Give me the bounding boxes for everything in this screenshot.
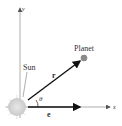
angle-arc xyxy=(36,100,38,107)
y-axis-label: y xyxy=(21,6,25,12)
eccentricity-vector-label: e xyxy=(47,110,51,119)
orbit-diagram: y x Sun Planet r θ e xyxy=(0,0,122,126)
planet-icon xyxy=(81,55,88,62)
x-axis-label: x xyxy=(112,104,116,110)
sun-label-leader xyxy=(23,72,27,97)
sun-label: Sun xyxy=(23,63,35,72)
radius-vector-label: r xyxy=(52,71,56,80)
radius-vector xyxy=(28,61,80,100)
angle-label: θ xyxy=(39,95,43,103)
planet-label: Planet xyxy=(74,44,95,53)
sun-icon xyxy=(5,95,29,119)
